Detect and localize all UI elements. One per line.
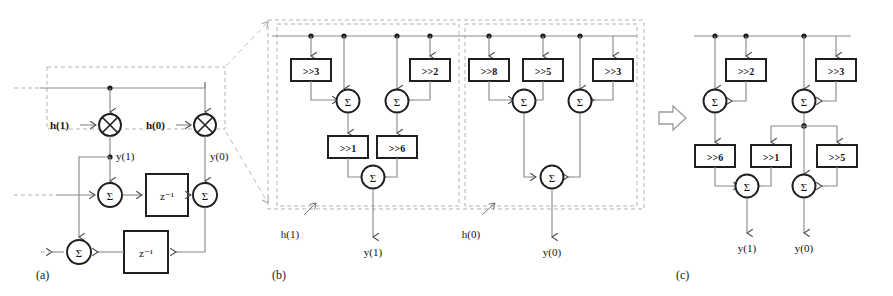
sigma-glyph: Σ	[801, 181, 807, 193]
sigma-glyph: Σ	[202, 190, 208, 202]
adder-b2: Σ	[386, 90, 409, 113]
sigma-glyph: Σ	[107, 190, 113, 202]
wire-b-shift4-out	[391, 158, 397, 177]
delay-label: z⁻¹	[160, 190, 174, 202]
shift-box-c-1: >>2	[726, 59, 766, 81]
multiplier-h0	[194, 114, 216, 136]
wire-c-fan-left	[771, 126, 804, 132]
sigma-glyph: Σ	[577, 96, 583, 108]
expansion-leaders	[226, 22, 268, 203]
shift-label: >>3	[828, 66, 844, 77]
shift-label: >>2	[738, 66, 754, 77]
block-diagram-svg: .w { stroke:#8c8c8c; stroke-width:1.15; …	[0, 0, 893, 296]
shift-box-c-4: >>1	[751, 145, 791, 167]
sigma-glyph: Σ	[521, 96, 527, 108]
shift-box-c-3: >>6	[695, 145, 735, 167]
wire-c-shift3-out	[715, 167, 733, 186]
wire-b-add5-to-add6	[574, 113, 580, 177]
adder-c3: Σ	[736, 175, 759, 198]
sigma-glyph: Σ	[549, 172, 555, 184]
shift-box-c-5: >>5	[817, 145, 857, 167]
shift-box-b-1: >>3	[291, 59, 331, 81]
leader-line-top	[226, 22, 268, 66]
leader-line-bottom	[226, 132, 268, 203]
output-label-y0-c: y(0)	[795, 242, 814, 255]
wire-b-add4-to-add6	[524, 113, 530, 177]
panel-c: >>2 Σ >>6 >>3 Σ	[676, 33, 857, 282]
wire-b-shift7-out	[600, 81, 613, 100]
shift-label: >>6	[707, 152, 723, 163]
sigma-glyph: Σ	[345, 96, 351, 108]
multiplier-h1	[99, 114, 121, 136]
adder-c1: Σ	[704, 90, 727, 113]
figure-canvas: .w { stroke:#8c8c8c; stroke-width:1.15; …	[0, 0, 893, 296]
output-label-y0-b: y(0)	[543, 246, 562, 259]
coeff-label-h1: h(1)	[50, 119, 69, 132]
shift-box-b-3: >>1	[328, 136, 368, 158]
wire-b-shift6-out	[536, 81, 543, 100]
wire-c-shift1-out	[738, 81, 746, 101]
shift-label: >>5	[829, 152, 845, 163]
wire-c-shift2-out	[828, 81, 836, 101]
coeff-label-h0: h(0)	[146, 119, 165, 132]
shift-label: >>8	[481, 66, 497, 77]
rightwards-white-arrow-icon	[659, 106, 686, 130]
shift-label: >>2	[422, 66, 438, 77]
sigma-glyph: Σ	[712, 96, 718, 108]
adder-c4: Σ	[793, 175, 816, 198]
group-h1: >>3 Σ >>1 >>2	[281, 33, 450, 259]
shift-box-b-7: >>3	[593, 59, 633, 81]
group-label-h0: h(0)	[462, 228, 481, 241]
panel-c-caption: (c)	[676, 268, 689, 282]
shift-label: >>1	[340, 143, 356, 154]
shift-label: >>3	[605, 66, 621, 77]
sigma-glyph: Σ	[801, 96, 807, 108]
output-label-y1-c: y(1)	[738, 242, 757, 255]
adder-c2: Σ	[793, 90, 816, 113]
shift-box-b-2: >>2	[410, 59, 450, 81]
output-label-y1-b: y(1)	[364, 246, 383, 259]
wire-b-shift1-out	[311, 81, 332, 100]
shift-label: >>6	[389, 143, 405, 154]
shift-box-b-5: >>8	[469, 59, 509, 81]
adder-a1: Σ	[98, 183, 122, 207]
wire-c-shift4-out	[765, 167, 771, 186]
shift-box-c-2: >>3	[816, 59, 856, 81]
signal-label-y0: y(0)	[210, 150, 229, 163]
shift-label: >>3	[303, 66, 319, 77]
sigma-glyph: Σ	[394, 96, 400, 108]
adder-a2: Σ	[193, 183, 217, 207]
adder-b6: Σ	[541, 166, 564, 189]
adder-a3: Σ	[67, 240, 91, 264]
transform-arrow	[659, 106, 686, 130]
panel-a: h(1) h(0) y(1) y(0) Σ z⁻¹	[14, 67, 229, 282]
delay-label: z⁻¹	[139, 247, 153, 259]
sigma-glyph: Σ	[370, 172, 376, 184]
delay-block-a1: z⁻¹	[146, 174, 188, 216]
adder-b3: Σ	[362, 166, 385, 189]
wire-b-shift2-out	[415, 81, 430, 100]
group-label-h1: h(1)	[281, 228, 300, 241]
adder-b5: Σ	[569, 90, 592, 113]
wire-b-shift5-out	[489, 81, 508, 100]
panel-b-caption: (b)	[272, 268, 286, 282]
signal-label-y1: y(1)	[116, 150, 135, 163]
panel-b: >>3 Σ >>1 >>2	[268, 20, 644, 282]
shift-box-b-4: >>6	[377, 136, 417, 158]
wire-c-fan-right	[804, 126, 837, 132]
shift-label: >>1	[763, 152, 779, 163]
delay-block-a2: z⁻¹	[124, 231, 168, 273]
group-h0: >>8 >>5 Σ >>3	[462, 33, 633, 259]
shift-box-b-6: >>5	[523, 59, 563, 81]
sigma-glyph: Σ	[76, 247, 82, 259]
sigma-glyph: Σ	[744, 181, 750, 193]
shift-label: >>5	[535, 66, 551, 77]
adder-b1: Σ	[337, 90, 360, 113]
wire-c-shift5-out	[828, 167, 837, 186]
panel-a-caption: (a)	[36, 268, 49, 282]
panel-b-outer-dashed-box	[268, 20, 644, 209]
adder-b4: Σ	[513, 90, 536, 113]
